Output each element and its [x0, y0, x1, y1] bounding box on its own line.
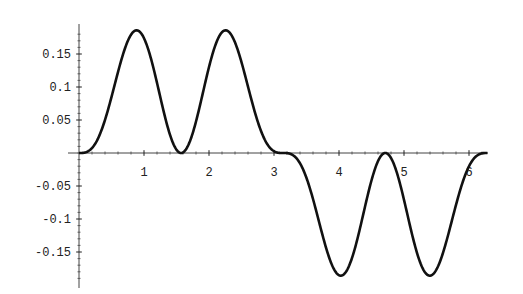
x-tick-label: 1 [140, 166, 147, 180]
y-tick-label: -0.05 [35, 180, 71, 194]
y-tick-label: 0.1 [49, 81, 71, 95]
y-tick-label: -0.1 [42, 213, 71, 227]
axes [68, 24, 488, 288]
x-tick-label: 3 [270, 166, 277, 180]
y-tick-label: 0.15 [42, 48, 71, 62]
y-tick-label: -0.15 [35, 246, 71, 260]
x-tick-label: 4 [335, 166, 342, 180]
x-tick-label: 2 [205, 166, 212, 180]
x-tick-label: 5 [400, 166, 407, 180]
y-tick-label: 0.05 [42, 114, 71, 128]
line-chart: 1234560.150.10.05-0.05-0.1-0.15 [0, 0, 523, 294]
